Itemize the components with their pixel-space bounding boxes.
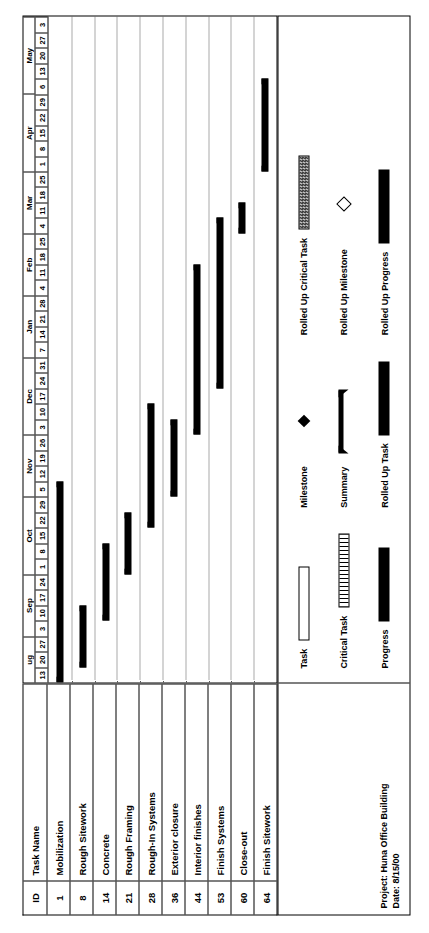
timeline-week-cell: 22 [35, 109, 47, 124]
timeline-month-cell: ug [23, 636, 34, 682]
column-header-id: ID [23, 880, 46, 914]
table-row[interactable]: 28Rough-In Systems [139, 683, 162, 914]
legend-column: TaskCritical TaskProgress [288, 533, 399, 668]
table-row[interactable]: 44Interior finishes [185, 683, 208, 914]
dotted-bar-outlined-icon [298, 155, 309, 229]
task-table-header-row: ID Task Name [23, 683, 47, 914]
timeline-week-cell: 17 [35, 388, 47, 403]
hollow-diamond-icon [336, 167, 350, 241]
timeline-week-cell: 12 [35, 465, 47, 480]
timeline-week-cell: 29 [35, 496, 47, 511]
column-header-name: Task Name [23, 683, 46, 880]
legend-column: MilestoneSummaryRolled Up Task [288, 361, 399, 507]
legend-item-label: Summary [338, 466, 348, 507]
schedule-area: ID Task Name 1Mobilization8Rough Sitewor… [22, 15, 277, 915]
task-id-cell: 28 [139, 880, 161, 914]
gantt-chart-page: ID Task Name 1Mobilization8Rough Sitewor… [0, 0, 429, 933]
task-id-cell: 14 [93, 880, 115, 914]
task-id-cell: 1 [47, 880, 69, 914]
legend-band: Project: Huna Office Building Date: 8/15… [277, 15, 410, 915]
timeline-week-cell: 10 [35, 605, 47, 620]
table-row[interactable]: 36Exterior closure [162, 683, 185, 914]
dotted-bar-icon [378, 361, 389, 435]
table-row[interactable]: 1Mobilization [47, 683, 70, 914]
gridline [208, 16, 209, 682]
gridline [253, 16, 254, 682]
timeline-week-cell: 29 [35, 94, 47, 109]
task-name-cell: Interior finishes [185, 683, 207, 880]
timeline-week-row: 1320273101724181522295121926310172431714… [35, 16, 47, 682]
timeline-header: ugSepOctNovDecJanFebMarAprMay 1320273101… [23, 16, 48, 682]
table-row[interactable]: 8Rough Sitework [70, 683, 93, 914]
gantt-summary-bar[interactable] [102, 543, 109, 620]
timeline-month-cell: Dec [23, 357, 34, 434]
solid-bar-icon [378, 547, 389, 621]
table-row[interactable]: 14Concrete [93, 683, 116, 914]
task-table: ID Task Name 1Mobilization8Rough Sitewor… [22, 683, 277, 915]
task-name-cell: Close-out [231, 683, 253, 880]
project-title: Project: Huna Office Building [377, 689, 389, 908]
table-row[interactable]: 60Close-out [231, 683, 254, 914]
timeline-week-cell: 25 [35, 171, 47, 186]
gantt-summary-bar[interactable] [261, 78, 268, 171]
timeline-week-cell: 13 [35, 63, 47, 78]
timeline-week-cell: 24 [35, 574, 47, 589]
task-name-cell: Concrete [93, 683, 115, 880]
gantt-summary-bar[interactable] [79, 605, 86, 667]
gridline [116, 16, 117, 682]
timeline-month-cell: Feb [23, 233, 34, 295]
rolled-up-milestone-diamond-icon [336, 196, 352, 212]
timeline-week-cell: 4 [35, 279, 47, 294]
gantt-summary-bar[interactable] [124, 512, 131, 574]
legend-item: Rolled Up Milestone [332, 155, 354, 334]
task-id-cell: 64 [254, 880, 276, 914]
gridline [162, 16, 163, 682]
gantt-summary-bar[interactable] [216, 217, 223, 387]
timeline-week-cell: 27 [35, 636, 47, 651]
table-row[interactable]: 53Finish Systems [208, 683, 231, 914]
task-name-cell: Rough Framing [116, 683, 138, 880]
legend-item-label: Task [298, 648, 308, 668]
gantt-summary-bar[interactable] [170, 419, 177, 496]
timeline-week-cell: 4 [35, 217, 47, 232]
open-bar-icon [298, 566, 309, 640]
task-id-cell: 44 [185, 880, 207, 914]
timeline-week-cell: 19 [35, 450, 47, 465]
task-id-cell: 53 [208, 880, 230, 914]
timeline-week-cell: 15 [35, 527, 47, 542]
timeline-week-cell: 31 [35, 357, 47, 372]
legend-item-label: Rolled Up Task [379, 443, 389, 507]
task-name-cell: Exterior closure [162, 683, 184, 880]
summary-bar-icon [337, 384, 349, 458]
legend-item: Critical Task [332, 533, 354, 668]
timeline-week-cell: 3 [35, 419, 47, 434]
task-name-cell: Finish Sitework [254, 683, 276, 880]
timeline-week-cell: 28 [35, 295, 47, 310]
timeline-week-cell: 24 [35, 372, 47, 387]
table-row[interactable]: 21Rough Framing [116, 683, 139, 914]
table-row[interactable]: 64Finish Sitework [254, 683, 276, 914]
legend-item: Summary [332, 361, 354, 507]
chart-sheet: ID Task Name 1Mobilization8Rough Sitewor… [22, 15, 410, 915]
gantt-summary-bar[interactable] [193, 264, 200, 434]
timeline-week-cell: 5 [35, 481, 47, 496]
task-name-cell: Rough-In Systems [139, 683, 161, 880]
timeline-week-cell: 22 [35, 512, 47, 527]
legend-item-label: Critical Task [338, 615, 348, 668]
timeline-week-cell: 6 [35, 78, 47, 93]
gantt-summary-bar[interactable] [56, 481, 63, 682]
timeline-month-cell: Sep [23, 574, 34, 636]
timeline-month-cell: Jan [23, 295, 34, 357]
task-name-cell: Mobilization [47, 683, 69, 880]
project-print-date: Date: 8/15/00 [389, 689, 401, 908]
timeline-week-cell: 8 [35, 543, 47, 558]
task-id-cell: 8 [70, 880, 92, 914]
task-id-cell: 60 [231, 880, 253, 914]
gantt-summary-bar[interactable] [147, 403, 154, 527]
gantt-summary-bar[interactable] [238, 202, 245, 233]
timeline-week-cell: 3 [35, 16, 47, 31]
timeline-week-cell: 11 [35, 264, 47, 279]
summary-bar-icon [338, 390, 343, 452]
legend-item-label: Milestone [298, 466, 308, 508]
gridline [230, 16, 231, 682]
